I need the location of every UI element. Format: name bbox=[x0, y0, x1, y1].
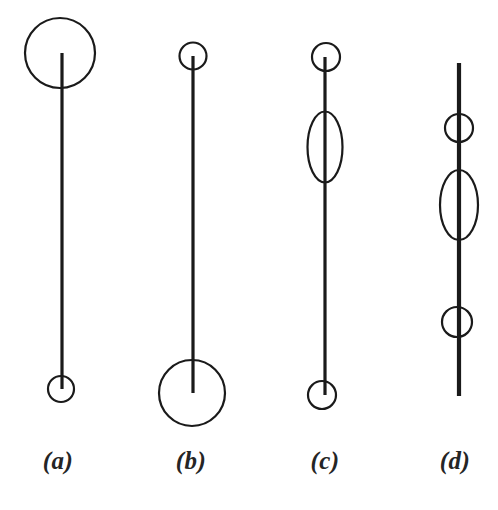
panel-label-d: (d) bbox=[416, 444, 494, 478]
figure-root: (a) (b) (c) (d) bbox=[0, 0, 498, 510]
panel-c-bottom-small-circle bbox=[308, 381, 336, 409]
panel-c-diagram bbox=[308, 43, 343, 409]
panel-label-b: (b) bbox=[152, 444, 230, 478]
panel-label-c: (c) bbox=[286, 444, 364, 478]
panel-label-a: (a) bbox=[20, 444, 96, 478]
panel-b-diagram bbox=[159, 43, 225, 427]
panel-d-diagram bbox=[440, 63, 478, 396]
panel-labels-row: (a) (b) (c) (d) bbox=[0, 444, 498, 490]
panel-a-top-large-circle bbox=[25, 18, 95, 88]
panel-a-diagram bbox=[25, 18, 95, 402]
figure-canvas bbox=[0, 0, 498, 440]
